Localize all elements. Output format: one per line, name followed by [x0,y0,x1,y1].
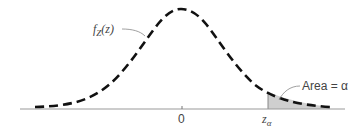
density-curve [35,9,330,107]
curve-label-arg: (z) [101,22,114,36]
area-label: Area = α [302,79,348,93]
curve-label: fZ(z) [93,22,114,38]
critical-value-label: zα [262,112,271,128]
tick-label-zero: 0 [178,112,185,126]
critical-label-sub: α [267,118,272,128]
curve-label-leader [122,29,145,36]
